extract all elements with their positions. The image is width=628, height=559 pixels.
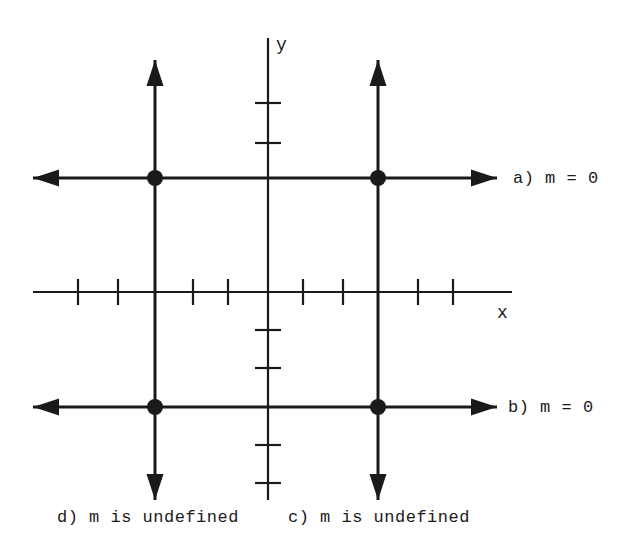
line-a-horizontal	[33, 170, 497, 187]
arrowhead-right	[471, 170, 497, 187]
line-c-vertical	[370, 60, 387, 500]
axes-group	[33, 38, 512, 500]
arrowhead-left	[33, 399, 59, 416]
intersection-dot	[370, 170, 386, 186]
intersection-dot	[147, 399, 163, 415]
arrowhead-right	[471, 399, 497, 416]
line-b-slope-label: b) m = 0	[508, 399, 594, 416]
slope-diagram-figure: a) m = 0 b) m = 0 c) m is undefined d) m…	[0, 0, 628, 559]
arrowhead-left	[33, 170, 59, 187]
plotted-lines-group	[33, 60, 497, 500]
x-axis-label: x	[497, 304, 508, 322]
arrowhead-down	[370, 474, 387, 500]
line-d-slope-label: d) m is undefined	[57, 509, 239, 526]
line-d-vertical	[147, 60, 164, 500]
intersection-dot	[370, 399, 386, 415]
line-c-slope-label: c) m is undefined	[288, 509, 470, 526]
coordinate-plane-canvas	[0, 0, 628, 559]
y-axis-label: y	[276, 36, 287, 54]
line-b-horizontal	[33, 399, 497, 416]
arrowhead-up	[147, 60, 164, 86]
line-a-slope-label: a) m = 0	[513, 170, 599, 187]
arrowhead-down	[147, 474, 164, 500]
intersection-dot	[147, 170, 163, 186]
arrowhead-up	[370, 60, 387, 86]
